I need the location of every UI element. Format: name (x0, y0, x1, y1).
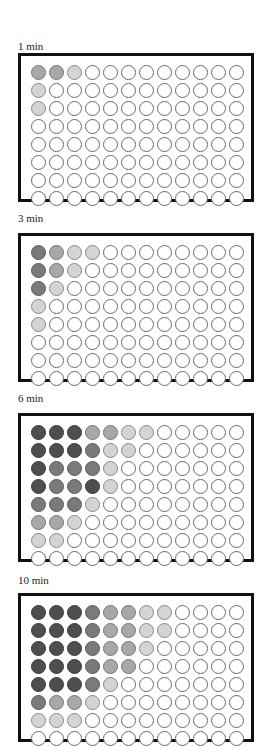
well-H1 (31, 731, 46, 746)
well-E2 (49, 137, 64, 152)
well-plate (18, 413, 254, 562)
well-E8 (157, 317, 172, 332)
well-F2 (49, 335, 64, 350)
well-C6 (121, 101, 136, 116)
well-A9 (175, 425, 190, 440)
well-D11 (211, 659, 226, 674)
well-H8 (157, 551, 172, 566)
well-G12 (229, 713, 244, 728)
well-E6 (121, 317, 136, 332)
well-C7 (139, 461, 154, 476)
well-E7 (139, 677, 154, 692)
well-A2 (49, 425, 64, 440)
well-B7 (139, 623, 154, 638)
well-H1 (31, 191, 46, 206)
well-D3 (67, 299, 82, 314)
well-E11 (211, 137, 226, 152)
well-E4 (85, 677, 100, 692)
well-H9 (175, 551, 190, 566)
well-D5 (103, 659, 118, 674)
well-C11 (211, 281, 226, 296)
well-F7 (139, 695, 154, 710)
well-A11 (211, 425, 226, 440)
well-G12 (229, 173, 244, 188)
well-A6 (121, 245, 136, 260)
well-F5 (103, 695, 118, 710)
well-E4 (85, 317, 100, 332)
well-B2 (49, 83, 64, 98)
well-F8 (157, 335, 172, 350)
well-F3 (67, 335, 82, 350)
well-A6 (121, 65, 136, 80)
panel-label: 1 min (18, 40, 43, 52)
well-B7 (139, 83, 154, 98)
well-C1 (31, 101, 46, 116)
well-A4 (85, 425, 100, 440)
well-A12 (229, 605, 244, 620)
well-E1 (31, 137, 46, 152)
well-F3 (67, 515, 82, 530)
well-H11 (211, 371, 226, 386)
well-H6 (121, 191, 136, 206)
well-F12 (229, 515, 244, 530)
well-A7 (139, 425, 154, 440)
well-H10 (193, 191, 208, 206)
well-E3 (67, 677, 82, 692)
well-G5 (103, 353, 118, 368)
well-D1 (31, 479, 46, 494)
well-G7 (139, 713, 154, 728)
well-G1 (31, 173, 46, 188)
well-C7 (139, 641, 154, 656)
well-H3 (67, 551, 82, 566)
well-G9 (175, 173, 190, 188)
well-E9 (175, 317, 190, 332)
well-B8 (157, 443, 172, 458)
well-H12 (229, 191, 244, 206)
well-G12 (229, 533, 244, 548)
well-B3 (67, 623, 82, 638)
well-D6 (121, 479, 136, 494)
well-B8 (157, 83, 172, 98)
well-H2 (49, 731, 64, 746)
well-B1 (31, 263, 46, 278)
well-C11 (211, 641, 226, 656)
well-E5 (103, 317, 118, 332)
well-E7 (139, 317, 154, 332)
well-C3 (67, 461, 82, 476)
well-B5 (103, 443, 118, 458)
well-C10 (193, 101, 208, 116)
well-A10 (193, 605, 208, 620)
well-B6 (121, 623, 136, 638)
well-A10 (193, 245, 208, 260)
well-B3 (67, 263, 82, 278)
well-D7 (139, 479, 154, 494)
well-F6 (121, 155, 136, 170)
well-D12 (229, 299, 244, 314)
well-A8 (157, 65, 172, 80)
well-D9 (175, 299, 190, 314)
well-D5 (103, 479, 118, 494)
well-C1 (31, 641, 46, 656)
well-H9 (175, 371, 190, 386)
panel-label: 3 min (18, 212, 43, 224)
well-D7 (139, 299, 154, 314)
well-F12 (229, 335, 244, 350)
well-C10 (193, 641, 208, 656)
well-A1 (31, 245, 46, 260)
well-E8 (157, 497, 172, 512)
well-G9 (175, 353, 190, 368)
well-C3 (67, 641, 82, 656)
well-D9 (175, 119, 190, 134)
well-grid (30, 424, 246, 568)
well-A3 (67, 605, 82, 620)
well-C2 (49, 281, 64, 296)
well-D11 (211, 119, 226, 134)
well-D6 (121, 299, 136, 314)
well-E1 (31, 497, 46, 512)
well-E7 (139, 497, 154, 512)
well-C5 (103, 101, 118, 116)
well-H8 (157, 191, 172, 206)
well-D6 (121, 119, 136, 134)
well-E6 (121, 497, 136, 512)
well-A2 (49, 65, 64, 80)
